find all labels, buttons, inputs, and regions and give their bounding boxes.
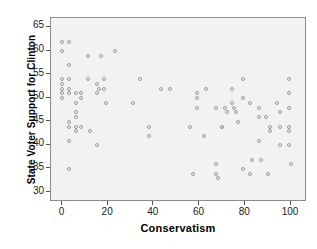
plot-area	[50, 17, 306, 201]
data-point	[74, 101, 78, 105]
data-point	[67, 139, 71, 143]
data-point	[287, 143, 291, 147]
data-point	[214, 172, 218, 176]
data-point	[67, 167, 71, 171]
data-point	[259, 158, 263, 162]
data-point	[241, 96, 245, 100]
data-point	[159, 87, 163, 91]
data-point	[234, 110, 238, 114]
data-point	[147, 134, 151, 138]
x-tick-label: 100	[282, 206, 299, 218]
x-tick-mark	[61, 201, 62, 205]
data-point	[214, 162, 218, 166]
data-point	[168, 87, 172, 91]
data-point	[248, 101, 252, 105]
y-tick-mark	[46, 144, 50, 145]
data-point	[67, 120, 71, 124]
data-point	[74, 110, 78, 114]
data-point	[60, 87, 64, 91]
data-point	[266, 172, 270, 176]
x-tick-mark	[107, 201, 108, 205]
data-point	[88, 129, 92, 133]
data-point	[74, 91, 78, 95]
data-point	[99, 54, 103, 58]
x-tick-mark	[244, 201, 245, 205]
scatter-plot-figure: 3035404550556065 020406080100 Conservati…	[0, 0, 317, 249]
data-point	[67, 91, 71, 95]
data-point	[289, 162, 293, 166]
data-point	[195, 96, 199, 100]
data-point	[230, 101, 234, 105]
data-point	[97, 87, 101, 91]
data-point	[95, 82, 99, 86]
data-point	[257, 139, 261, 143]
data-point	[241, 77, 245, 81]
data-point	[147, 125, 151, 129]
data-point	[268, 129, 272, 133]
data-point	[104, 101, 108, 105]
y-axis-title: State Voter Support for Clinton	[26, 18, 37, 202]
data-point	[268, 125, 272, 129]
data-point	[278, 125, 282, 129]
x-tick-label: 40	[147, 206, 158, 218]
x-tick-mark	[152, 201, 153, 205]
data-point	[188, 125, 192, 129]
data-point	[230, 87, 234, 91]
data-point	[214, 106, 218, 110]
data-point	[79, 91, 83, 95]
data-point	[278, 143, 282, 147]
y-tick-mark	[46, 120, 50, 121]
data-point	[220, 125, 224, 129]
x-tick-label: 80	[239, 206, 250, 218]
data-point	[225, 110, 229, 114]
x-axis-title: Conservatism	[50, 222, 306, 234]
y-tick-mark	[46, 50, 50, 51]
y-tick-mark	[46, 73, 50, 74]
data-point	[278, 110, 282, 114]
data-point	[257, 115, 261, 119]
data-point	[74, 129, 78, 133]
data-point	[248, 172, 252, 176]
x-tick-label: 20	[102, 206, 113, 218]
y-tick-mark	[46, 26, 50, 27]
data-point	[60, 82, 64, 86]
data-point	[191, 172, 195, 176]
data-point	[74, 125, 78, 129]
data-point	[113, 49, 117, 53]
data-point	[202, 134, 206, 138]
data-point	[102, 87, 106, 91]
data-point	[74, 115, 78, 119]
data-point	[79, 125, 83, 129]
data-point	[95, 143, 99, 147]
y-tick-mark	[46, 191, 50, 192]
data-point	[131, 101, 135, 105]
data-point	[275, 101, 279, 105]
x-tick-mark	[198, 201, 199, 205]
data-point	[60, 96, 64, 100]
data-point	[195, 91, 199, 95]
data-point	[95, 91, 99, 95]
data-point	[60, 49, 64, 53]
data-point	[287, 125, 291, 129]
data-point	[287, 129, 291, 133]
x-tick-label: 60	[193, 206, 204, 218]
data-point	[79, 96, 83, 100]
y-tick-mark	[46, 97, 50, 98]
x-tick-label: 0	[59, 206, 65, 218]
data-point	[232, 106, 236, 110]
data-point	[60, 77, 64, 81]
data-point	[60, 91, 64, 95]
data-point	[60, 40, 64, 44]
y-tick-mark	[46, 167, 50, 168]
data-point	[86, 77, 90, 81]
data-point	[67, 77, 71, 81]
data-point	[223, 106, 227, 110]
data-point	[287, 91, 291, 95]
data-point	[241, 167, 245, 171]
data-point	[67, 63, 71, 67]
data-point	[250, 158, 254, 162]
data-point	[204, 87, 208, 91]
data-point	[86, 54, 90, 58]
data-point	[264, 115, 268, 119]
data-point	[102, 77, 106, 81]
